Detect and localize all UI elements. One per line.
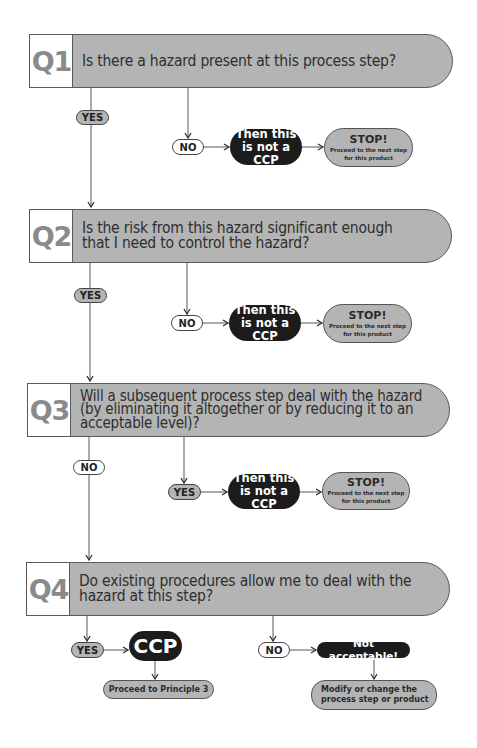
yes-label-q3: YES (168, 484, 201, 500)
yes-label-q2: YES (74, 288, 107, 303)
question-text-q4: Do existing procedures allow me to deal … (79, 574, 412, 604)
ccp-result: CCP (129, 631, 182, 661)
stop-box-q1: STOP! Proceed to the next step for this … (324, 128, 413, 167)
question-q2: Is the risk from this hazard significant… (72, 209, 452, 263)
question-number-q2: Q2 (29, 209, 73, 263)
stop-title: STOP! (350, 134, 388, 146)
no-label-q3: NO (73, 460, 105, 475)
stop-box-q3: STOP! Proceed to the next step for this … (322, 472, 410, 510)
stop-subtitle: Proceed to the next step for this produc… (328, 489, 405, 505)
no-label-q2: NO (171, 315, 203, 331)
question-text-q1: Is there a hazard present at this proces… (82, 54, 396, 69)
stop-box-q2: STOP! Proceed to the next step for this … (323, 304, 412, 343)
yes-label-q1: YES (76, 110, 109, 125)
stop-title: STOP! (349, 310, 387, 322)
not-ccp-result-q3: Then this is not a CCP (228, 474, 300, 509)
no-label-q1: NO (172, 139, 204, 155)
proceed-principle-3-box: Proceed to Principle 3 (103, 680, 214, 699)
stop-title: STOP! (347, 477, 385, 489)
no-label-q4: NO (258, 642, 290, 658)
question-q3: Will a subsequent process step deal with… (70, 383, 450, 437)
modify-process-box: Modify or change the process step or pro… (311, 680, 437, 710)
flow-connectors (0, 0, 477, 748)
not-acceptable-result: Not acceptable! (317, 642, 410, 658)
not-ccp-result-q2: Then this is not a CCP (229, 305, 301, 341)
question-text-q2: Is the risk from this hazard significant… (82, 221, 393, 251)
not-ccp-result-q1: Then this is not a CCP (230, 129, 302, 165)
question-text-q3: Will a subsequent process step deal with… (80, 390, 422, 431)
question-number-q3: Q3 (27, 383, 71, 437)
question-number-q4: Q4 (26, 562, 70, 616)
question-q1: Is there a hazard present at this proces… (72, 34, 453, 88)
question-number-q1: Q1 (29, 34, 73, 88)
yes-label-q4: YES (71, 642, 104, 658)
stop-subtitle: Proceed to the next step for this produc… (329, 322, 406, 338)
question-q4: Do existing procedures allow me to deal … (69, 562, 450, 616)
stop-subtitle: Proceed to the next step for this produc… (330, 146, 407, 162)
